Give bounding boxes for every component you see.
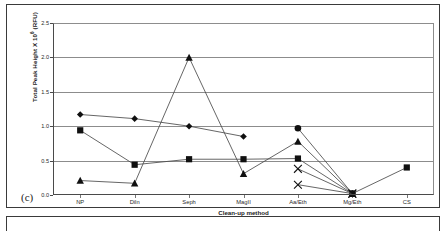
y-tick-label: 1.5 — [41, 89, 49, 95]
data-point-square — [240, 156, 246, 162]
y-tick-label: 2.0 — [41, 54, 49, 60]
data-point-diamond — [131, 115, 138, 122]
x-tick-label: Seph — [182, 199, 196, 205]
data-point-triangle — [185, 54, 192, 61]
y-tick-label: 0.0 — [41, 192, 49, 198]
y-tick-label: 1.0 — [41, 123, 49, 129]
x-tick-mark — [135, 195, 136, 198]
x-tick-mark — [407, 195, 408, 198]
data-point-square — [132, 162, 138, 168]
series-circle — [295, 125, 356, 197]
y-tick-label: 2.5 — [41, 20, 49, 26]
y-axis-title-exponent: 6 — [30, 31, 35, 34]
y-axis-title-base: Total Peak Height X 10 — [31, 34, 38, 102]
series-line — [298, 128, 352, 193]
x-tick-mark — [244, 195, 245, 198]
x-tick-mark — [80, 195, 81, 198]
data-point-diamond — [77, 111, 84, 118]
series-line — [80, 115, 243, 137]
x-tick-label: Aa/Eth — [289, 199, 306, 205]
x-tick-mark — [189, 195, 190, 198]
x-tick-mark — [298, 195, 299, 198]
data-point-diamond — [240, 133, 247, 140]
next-figure-panel — [6, 216, 440, 231]
series-line — [80, 57, 352, 193]
series-line — [298, 169, 352, 194]
y-tick-mark — [50, 195, 53, 196]
x-tick-label: NP — [76, 199, 84, 205]
data-point-square — [186, 156, 192, 162]
y-tick-label: 0.5 — [41, 158, 49, 164]
x-tick-label: Mg/Eth — [343, 199, 361, 205]
y-axis-title: Total Peak Height X 106 (RFU) — [30, 0, 38, 122]
data-point-triangle — [240, 170, 247, 177]
data-point-square — [295, 155, 301, 161]
data-point-diamond — [186, 123, 193, 130]
x-tick-label: CS — [403, 199, 411, 205]
data-point-circle — [295, 125, 302, 132]
series-layer — [53, 23, 434, 195]
data-point-square — [404, 164, 410, 170]
figure-panel: Total Peak Height X 106 (RFU) 0.00.51.01… — [6, 4, 440, 208]
panel-letter: (c) — [21, 191, 33, 203]
plot-area: 0.00.51.01.52.02.5 NPDilnSephMagIIAa/Eth… — [53, 23, 434, 195]
y-axis-title-unit: (RFU) — [31, 12, 38, 31]
data-point-cross — [294, 181, 302, 189]
x-axis-title: Clean-up method — [53, 209, 434, 216]
series-triangle — [77, 54, 357, 197]
data-point-triangle — [294, 138, 301, 145]
series-cross — [294, 181, 356, 198]
data-point-square — [77, 127, 83, 133]
x-tick-label: Diln — [130, 199, 140, 205]
x-tick-label: MagII — [236, 199, 251, 205]
data-point-cross — [294, 165, 302, 173]
